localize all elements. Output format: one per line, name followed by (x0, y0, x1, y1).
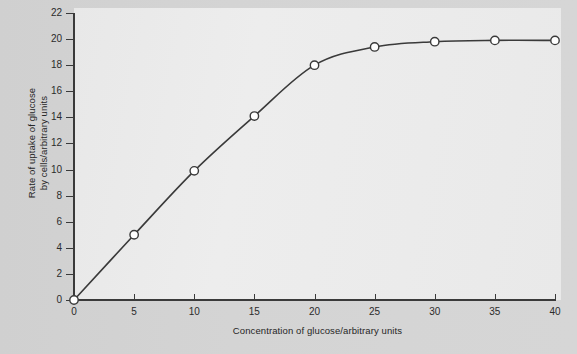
x-tick-label-10: 10 (179, 306, 209, 317)
y-tick-18 (66, 65, 74, 66)
y-axis-line (73, 13, 75, 301)
y-axis-title: Rate of uptake of glucose by cells/arbit… (26, 28, 50, 258)
x-tick-10 (194, 294, 195, 301)
y-tick-22 (66, 13, 74, 14)
y-tick-label-0: 0 (36, 295, 62, 305)
y-tick-20 (66, 39, 74, 40)
x-tick-label-30: 30 (420, 306, 450, 317)
y-axis-title-line2: by cells/arbitrary units (38, 96, 49, 190)
y-tick-label-2: 2 (36, 269, 62, 279)
x-tick-5 (134, 294, 135, 301)
x-tick-label-25: 25 (360, 306, 390, 317)
x-tick-35 (495, 294, 496, 301)
y-axis-title-line1: Rate of uptake of glucose (26, 88, 37, 198)
x-tick-label-40: 40 (540, 306, 570, 317)
y-tick-label-22: 22 (36, 8, 62, 18)
x-tick-label-0: 0 (59, 306, 89, 317)
x-tick-label-15: 15 (239, 306, 269, 317)
y-tick-8 (66, 196, 74, 197)
x-tick-15 (254, 294, 255, 301)
y-tick-16 (66, 91, 74, 92)
x-tick-25 (375, 294, 376, 301)
x-tick-label-20: 20 (300, 306, 330, 317)
x-tick-label-35: 35 (480, 306, 510, 317)
y-tick-4 (66, 248, 74, 249)
chart-figure: 0246810121416182022 0510152025303540 Rat… (0, 0, 577, 354)
plot-area (74, 8, 561, 300)
x-tick-0 (74, 294, 75, 301)
x-tick-30 (435, 294, 436, 301)
y-tick-14 (66, 117, 74, 118)
x-axis-title: Concentration of glucose/arbitrary units (74, 325, 561, 336)
y-tick-12 (66, 143, 74, 144)
x-tick-label-5: 5 (119, 306, 149, 317)
y-tick-6 (66, 222, 74, 223)
y-tick-10 (66, 170, 74, 171)
x-tick-40 (555, 294, 556, 301)
x-tick-20 (315, 294, 316, 301)
y-tick-2 (66, 274, 74, 275)
y-tick-0 (66, 300, 74, 301)
